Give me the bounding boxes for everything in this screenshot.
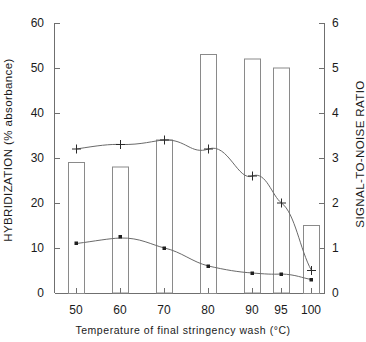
plus-marker-90 [248,172,257,181]
plus-marker-70 [160,136,169,145]
bar-95 [274,68,290,293]
bar-50 [69,163,85,294]
bar-100 [304,226,320,294]
dot-marker-95 [280,273,284,277]
dot-marker-70 [163,247,167,251]
left-tick-marks [55,23,61,248]
right-tick-marks [319,23,325,248]
plot-canvas [0,0,366,342]
dot-marker-90 [251,272,255,276]
signal-noise-dot-curve [77,238,312,280]
plus-markers [72,136,316,276]
bar-60 [113,167,129,293]
plus-marker-80 [204,145,213,154]
dot-marker-80 [207,265,211,269]
plus-marker-60 [116,140,125,149]
dot-marker-50 [75,242,79,246]
dot-marker-100 [310,278,314,282]
bar-80 [201,55,217,294]
bar-70 [157,140,173,293]
dot-marker-60 [119,235,123,239]
plus-marker-50 [72,145,81,154]
chart-figure: HYBRIDIZATION (% absorbance) SIGNAL-TO-N… [0,0,366,342]
signal-noise-plus-curve [77,140,312,271]
plus-marker-100 [307,266,316,275]
